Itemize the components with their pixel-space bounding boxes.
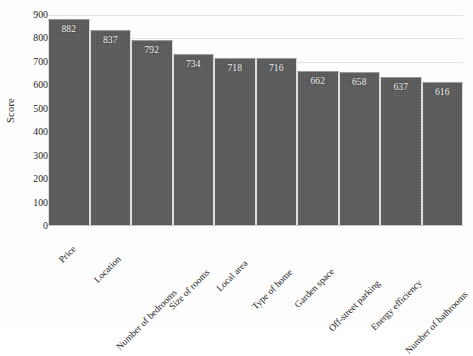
bar[interactable]: 658 (339, 72, 381, 226)
bar-slot: 616 (422, 15, 464, 226)
x-axis-category-label: Size of rooms (167, 267, 211, 311)
y-axis-title: Score (5, 83, 16, 139)
x-label-slot: Number of bathrooms (422, 228, 464, 324)
bar-value-label: 658 (340, 76, 380, 87)
x-axis-category-label: Garden space (292, 266, 335, 309)
y-axis-tick-labels: 9008007006005004003002001000 (16, 10, 48, 232)
bar[interactable]: 734 (173, 54, 215, 226)
bar[interactable]: 718 (214, 58, 256, 226)
y-axis-tick-label: 600 (16, 80, 48, 90)
x-label-slot: Local area (214, 228, 256, 324)
bar-value-label: 716 (257, 62, 297, 73)
bar-slot: 837 (90, 15, 132, 226)
x-label-slot: Energy efficiency (380, 228, 422, 324)
bar-value-label: 882 (49, 23, 89, 34)
x-label-slot: Off-street parking (339, 228, 381, 324)
bar[interactable]: 662 (297, 71, 339, 226)
bar-value-label: 616 (423, 86, 463, 97)
x-axis-category-label: Location (92, 254, 123, 285)
bar[interactable]: 882 (48, 19, 90, 226)
x-axis-baseline (48, 225, 463, 226)
y-axis-tick-label: 400 (16, 127, 48, 137)
bar-slot: 792 (131, 15, 173, 226)
x-label-slot: Size of rooms (173, 228, 215, 324)
y-axis-tick-label: 700 (16, 57, 48, 67)
bar-value-label: 792 (132, 44, 172, 55)
x-axis-category-label: Local area (214, 258, 249, 293)
bar-value-label: 662 (298, 75, 338, 86)
y-axis-tick-label: 500 (16, 104, 48, 114)
plot-area: 882837792734718716662658637616 (48, 15, 463, 226)
x-label-slot: Price (48, 228, 90, 324)
x-axis-category-labels: PriceLocationNumber of bedroomsSize of r… (48, 228, 463, 324)
bar-slot: 734 (173, 15, 215, 226)
bar-slot: 658 (339, 15, 381, 226)
bar[interactable]: 792 (131, 40, 173, 226)
bar-value-label: 637 (381, 81, 421, 92)
y-axis-tick-label: 100 (16, 198, 48, 208)
bar[interactable]: 837 (90, 30, 132, 226)
bar-slot: 637 (380, 15, 422, 226)
y-axis-tick-label: 300 (16, 151, 48, 161)
bar-slot: 662 (297, 15, 339, 226)
x-axis-category-label: Type of home (250, 267, 294, 311)
x-label-slot: Type of home (256, 228, 298, 324)
bars-group: 882837792734718716662658637616 (48, 15, 463, 226)
bar-slot: 718 (214, 15, 256, 226)
y-axis-tick-label: 800 (16, 33, 48, 43)
bar[interactable]: 637 (380, 77, 422, 226)
bar-slot: 882 (48, 15, 90, 226)
y-axis-tick-label: 900 (16, 10, 48, 20)
bar[interactable]: 616 (422, 82, 464, 226)
bar-slot: 716 (256, 15, 298, 226)
x-label-slot: Number of bedrooms (131, 228, 173, 324)
bar[interactable]: 716 (256, 58, 298, 226)
y-axis-tick-label: 0 (16, 221, 48, 231)
bar-value-label: 837 (91, 34, 131, 45)
bar-value-label: 734 (174, 58, 214, 69)
y-axis-tick-label: 200 (16, 174, 48, 184)
x-axis-category-label: Price (57, 244, 78, 265)
x-label-slot: Garden space (297, 228, 339, 324)
x-label-slot: Location (90, 228, 132, 324)
bar-value-label: 718 (215, 62, 255, 73)
